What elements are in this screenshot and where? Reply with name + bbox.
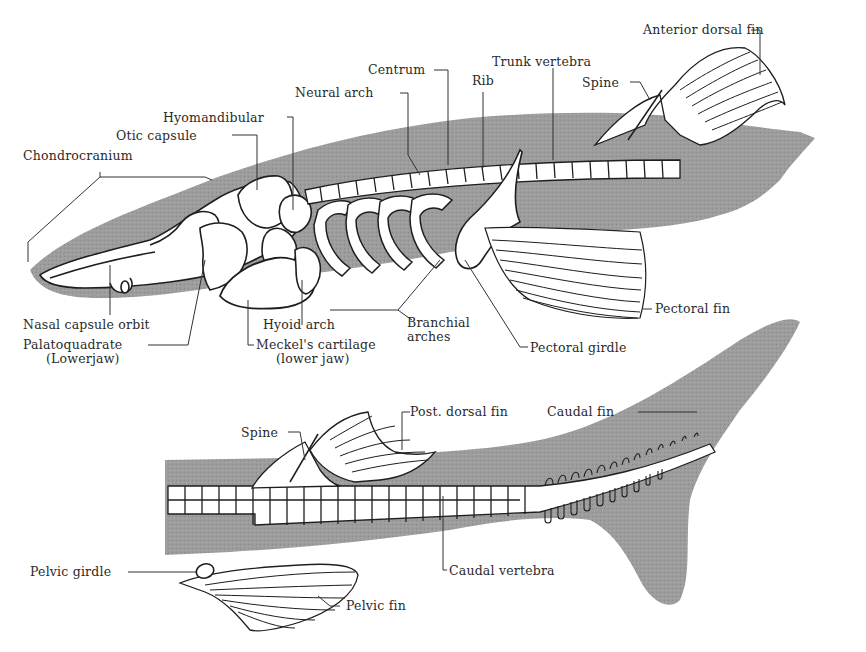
label-palatoquadrate-note: (Lowerjaw): [46, 352, 120, 366]
label-hyoid-arch: Hyoid arch: [263, 318, 335, 332]
label-caudal-fin: Caudal fin: [547, 405, 614, 419]
posterior-body-silhouette: [165, 319, 800, 604]
label-trunk-vertebra: Trunk vertebra: [492, 55, 591, 69]
label-spine-posterior: Spine: [241, 426, 278, 440]
label-chondrocranium: Chondrocranium: [23, 149, 133, 163]
pectoral-fin: [485, 227, 646, 318]
label-pelvic-girdle: Pelvic girdle: [30, 565, 111, 579]
label-pelvic-fin: Pelvic fin: [346, 599, 406, 613]
label-meckels-cartilage-note: (lower jaw): [276, 352, 350, 366]
label-branchial-arches-line2: arches: [407, 330, 451, 344]
label-palatoquadrate: Palatoquadrate: [23, 338, 122, 352]
label-neural-arch: Neural arch: [295, 86, 373, 100]
label-rib: Rib: [472, 74, 494, 88]
label-pectoral-girdle: Pectoral girdle: [530, 341, 627, 355]
shark-skeleton-diagram: Anterior dorsal fin Trunk vertebra Centr…: [0, 0, 866, 652]
label-hyomandibular: Hyomandibular: [163, 111, 264, 125]
label-branchial-arches-line1: Branchial: [407, 316, 470, 330]
label-anterior-dorsal-fin: Anterior dorsal fin: [643, 23, 764, 37]
label-post-dorsal-fin: Post. dorsal fin: [410, 405, 508, 419]
label-pectoral-fin: Pectoral fin: [655, 302, 730, 316]
label-nasal-capsule-orbit: Nasal capsule orbit: [23, 318, 150, 332]
label-caudal-vertebra: Caudal vertebra: [449, 564, 555, 578]
label-centrum: Centrum: [368, 63, 425, 77]
hyoid-arch: [295, 248, 320, 294]
label-spine-anterior: Spine: [582, 76, 619, 90]
label-otic-capsule: Otic capsule: [116, 129, 197, 143]
label-meckels-cartilage: Meckel's cartilage: [256, 338, 376, 352]
